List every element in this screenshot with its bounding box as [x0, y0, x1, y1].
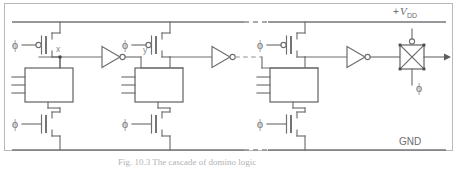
clock-label-evaluate-stage-2: ϕ [122, 118, 128, 131]
gnd-label: GND [399, 136, 421, 147]
logic-block-inputs-stage-1 [12, 77, 25, 93]
vdd-label-group: + V DD [393, 5, 417, 19]
inverter-stage-3[interactable] [347, 47, 400, 68]
nmos-evaluate-stage-1[interactable] [22, 102, 60, 150]
transmission-gate[interactable]: ϕ [399, 29, 451, 95]
logic-block-stage-3[interactable] [270, 68, 318, 102]
nmos-evaluate-stage-2[interactable] [132, 102, 170, 150]
clock-label-precharge-stage-3: ϕ [257, 39, 263, 52]
logic-block-stage-1[interactable] [25, 68, 73, 102]
pmos-precharge-stage-3[interactable] [267, 22, 305, 68]
clock-label-precharge-stage-2: ϕ [122, 39, 128, 52]
junction-dot-x [58, 55, 62, 59]
logic-block-inputs-stage-3 [257, 77, 270, 93]
node-x-net [39, 55, 102, 68]
stage-2: ϕ y [122, 22, 262, 150]
pmos-precharge-stage-1[interactable] [22, 22, 60, 68]
circuit-figure: ϕ x [0, 0, 457, 169]
node-label-x: x [56, 44, 61, 54]
circuit-schematic: ϕ x [0, 0, 457, 169]
clock-label-evaluate-stage-3: ϕ [257, 118, 263, 131]
logic-block-inputs-stage-2 [122, 77, 135, 93]
clock-label-evaluate-stage-1: ϕ [12, 118, 18, 131]
pmos-precharge-stage-2[interactable] [132, 22, 170, 68]
clock-label-precharge-stage-1: ϕ [12, 39, 18, 52]
logic-block-stage-2[interactable] [135, 68, 183, 102]
node-y-net [141, 57, 212, 68]
figure-caption: Fig. 10.3 The cascade of domino logic [118, 157, 256, 167]
clock-label-transmission-gate: ϕ [416, 82, 422, 95]
vdd-subscript: DD [407, 12, 417, 19]
output-arrow [444, 54, 451, 61]
tgate-pmos-bubble [409, 39, 414, 44]
nmos-evaluate-stage-3[interactable] [267, 102, 305, 150]
inverter-stage-2[interactable] [212, 47, 262, 68]
stage-3: ϕ [257, 22, 400, 150]
vdd-prefix: + [393, 6, 399, 17]
